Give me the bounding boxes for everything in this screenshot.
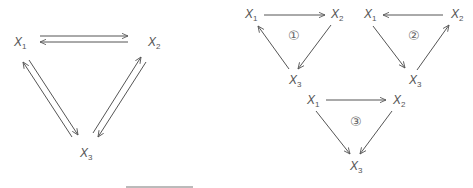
c3-edge-x2-x3 (360, 111, 392, 154)
node-x3: X3 (79, 146, 93, 162)
c2-node-x3: X3 (408, 73, 422, 89)
cycle-badge-3: ③ (350, 114, 362, 129)
edge-x3-x2 (93, 57, 141, 133)
node-x2: X2 (147, 35, 161, 51)
c1-edge-x2-x3 (298, 25, 331, 69)
c3-edge-x1-x3 (316, 111, 350, 154)
c1-node-x2: X2 (330, 7, 344, 23)
c3-node-x1: X1 (306, 93, 320, 109)
c2-edge-x3-x2 (417, 25, 449, 70)
edge-x3-x1 (23, 62, 72, 137)
cycle-badge-2: ② (408, 28, 420, 43)
diagram-canvas: X1 X2 X3 X1 X2 X3 ① X1 X2 X3 ② X1 X2 X3 … (0, 0, 473, 188)
cycle-2: X1 X2 X3 ② (363, 7, 464, 89)
c3-node-x3: X3 (349, 159, 363, 175)
c2-edge-x1-x3 (373, 26, 405, 68)
c1-node-x1: X1 (244, 7, 258, 23)
c3-node-x2: X2 (392, 93, 406, 109)
c1-node-x3: X3 (288, 73, 302, 89)
c1-edge-x3-x1 (258, 26, 289, 69)
cycle-1: X1 X2 X3 ① (244, 7, 344, 89)
c2-node-x2: X2 (450, 7, 464, 23)
cycle-3: X1 X2 X3 ③ (306, 93, 406, 175)
left-graph: X1 X2 X3 (13, 35, 193, 187)
c2-node-x1: X1 (363, 7, 377, 23)
node-x1: X1 (13, 35, 27, 51)
edge-x1-x3 (29, 60, 78, 135)
cycle-badge-1: ① (288, 28, 300, 43)
edge-x2-x3 (98, 62, 146, 137)
